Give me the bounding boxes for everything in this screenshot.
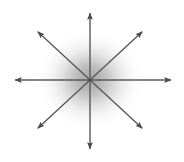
radial-arrow-diagram	[0, 0, 184, 162]
diagram-canvas	[0, 0, 184, 162]
center-origin-point	[89, 79, 92, 82]
